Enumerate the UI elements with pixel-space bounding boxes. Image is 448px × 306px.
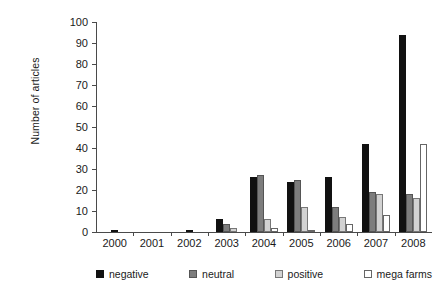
bar-positive-2005: [301, 207, 308, 232]
legend-swatch-icon: [189, 270, 197, 278]
y-axis-tick: 80: [56, 64, 96, 65]
y-axis-tick-label: 0: [62, 224, 88, 240]
bar-positive-2007: [376, 194, 383, 232]
bar-mega-farms-2008: [420, 144, 427, 232]
legend-item-positive[interactable]: positive: [275, 268, 324, 280]
bar-negative-2006: [325, 177, 332, 232]
bar-group: 2008: [395, 22, 432, 232]
bar-group: 2006: [320, 22, 357, 232]
x-axis-tick-label: 2002: [171, 237, 208, 249]
x-axis-tick-label: 2003: [208, 237, 245, 249]
bar-group-bars: [245, 22, 282, 232]
bar-group: 2001: [133, 22, 170, 232]
bar-positive-2008: [413, 198, 420, 232]
y-axis-tick-mark: [92, 232, 96, 233]
x-axis-tick-label: 2000: [96, 237, 133, 249]
y-axis-tick: 10: [56, 211, 96, 212]
bar-neutral-2007: [369, 192, 376, 232]
y-axis-tick-label: 40: [62, 140, 88, 156]
bar-negative-2004: [250, 177, 257, 232]
legend-item-label: negative: [109, 268, 149, 280]
legend-item-negative[interactable]: negative: [96, 268, 149, 280]
y-axis-tick-label: 10: [62, 203, 88, 219]
y-axis-tick-label: 80: [62, 56, 88, 72]
y-axis-title: Number of articles: [29, 21, 41, 181]
x-axis-line: [96, 232, 432, 233]
x-axis-tick-label: 2006: [320, 237, 357, 249]
x-axis-tick-label: 2001: [133, 237, 170, 249]
bar-group-bars: [283, 22, 320, 232]
x-axis-tick-label: 2007: [357, 237, 394, 249]
legend-item-mega-farms[interactable]: mega farms: [364, 268, 432, 280]
bar-negative-2005: [287, 182, 294, 232]
bar-mega-farms-2005: [308, 230, 315, 232]
x-axis-tick-mark: [245, 232, 246, 236]
y-axis-tick: 20: [56, 190, 96, 191]
bar-negative-2007: [362, 144, 369, 232]
y-axis-tick: 90: [56, 43, 96, 44]
bar-group: 2007: [357, 22, 394, 232]
y-axis-tick-label: 20: [62, 182, 88, 198]
y-axis-tick-label: 90: [62, 35, 88, 51]
bar-neutral-2005: [294, 180, 301, 233]
bar-positive-2004: [264, 219, 271, 232]
bar-group-bars: [96, 22, 133, 232]
legend-item-label: neutral: [202, 268, 234, 280]
bar-group-bars: [320, 22, 357, 232]
y-axis-tick: 50: [56, 127, 96, 128]
y-axis-tick-label: 30: [62, 161, 88, 177]
legend-item-label: mega farms: [377, 268, 432, 280]
plot-area: 1009080706050403020100 20002001200220032…: [96, 22, 432, 232]
bar-negative-2008: [399, 35, 406, 232]
y-axis-tick: 70: [56, 85, 96, 86]
y-axis-tick: 30: [56, 169, 96, 170]
y-axis-tick-label: 70: [62, 77, 88, 93]
y-axis-tick: 60: [56, 106, 96, 107]
bar-group: 2003: [208, 22, 245, 232]
y-axis-tick-label: 60: [62, 98, 88, 114]
chart-legend: negativeneutralpositivemega farms: [96, 268, 432, 280]
bar-mega-farms-2006: [346, 224, 353, 232]
y-axis-tick: 40: [56, 148, 96, 149]
x-axis-tick-label: 2008: [395, 237, 432, 249]
x-axis-tick-mark: [320, 232, 321, 236]
bar-group-bars: [357, 22, 394, 232]
bar-group-bars: [395, 22, 432, 232]
x-axis-tick-mark: [395, 232, 396, 236]
bar-group: 2000: [96, 22, 133, 232]
x-axis-tick-mark: [208, 232, 209, 236]
y-axis-tick: 100: [56, 22, 96, 23]
bar-positive-2006: [339, 217, 346, 232]
bar-group-bars: [133, 22, 170, 232]
bar-neutral-2008: [406, 194, 413, 232]
bar-neutral-2003: [223, 224, 230, 232]
legend-swatch-icon: [275, 270, 283, 278]
bar-negative-2000: [111, 230, 118, 232]
bar-mega-farms-2007: [383, 215, 390, 232]
bar-neutral-2004: [257, 175, 264, 232]
x-axis-tick-mark: [357, 232, 358, 236]
bar-group: 2005: [283, 22, 320, 232]
y-axis-tick: 0: [56, 232, 96, 233]
x-axis-tick-label: 2004: [245, 237, 282, 249]
bar-group-bars: [171, 22, 208, 232]
bar-negative-2002: [186, 230, 193, 232]
y-axis-tick-label: 50: [62, 119, 88, 135]
bar-group: 2004: [245, 22, 282, 232]
bar-negative-2003: [216, 219, 223, 232]
bar-neutral-2006: [332, 207, 339, 232]
bar-group: 2002: [171, 22, 208, 232]
legend-item-neutral[interactable]: neutral: [189, 268, 234, 280]
bar-chart-figure: Number of articles 100908070605040302010…: [0, 0, 448, 306]
x-axis-tick-mark: [283, 232, 284, 236]
legend-swatch-icon: [96, 270, 104, 278]
bar-group-bars: [208, 22, 245, 232]
legend-swatch-icon: [364, 270, 372, 278]
y-axis-tick-label: 100: [62, 14, 88, 30]
bar-positive-2003: [230, 228, 237, 232]
x-axis-tick-label: 2005: [283, 237, 320, 249]
x-axis-tick-mark: [171, 232, 172, 236]
x-axis-tick-mark: [133, 232, 134, 236]
legend-item-label: positive: [288, 268, 324, 280]
bar-mega-farms-2004: [271, 228, 278, 232]
